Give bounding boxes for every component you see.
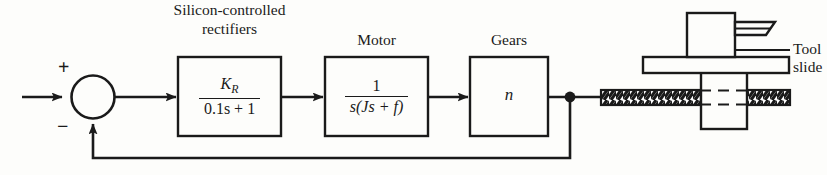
- scr-transfer-function: KR 0.1s + 1: [178, 57, 281, 136]
- motor-denominator: s(Js + f): [345, 96, 408, 116]
- scr-numerator: KR: [216, 75, 244, 98]
- motor-transfer-function: 1 s(Js + f): [325, 57, 428, 136]
- motor-numerator: 1: [368, 77, 386, 96]
- block-diagram-figure: Silicon-controlled rectifiers Motor Gear…: [0, 0, 827, 175]
- tool-slide-label-line1: Tool: [793, 40, 821, 58]
- plus-sign-label: +: [58, 57, 69, 78]
- scr-caption-line2: rectifiers: [148, 21, 311, 37]
- gears-gain-label: n: [470, 86, 548, 104]
- summing-junction: [72, 76, 115, 119]
- motor-denominator-paren: (Js + f): [356, 98, 403, 115]
- scr-caption-line1: Silicon-controlled: [148, 2, 311, 18]
- tool-slide-label-line2: slide: [793, 58, 822, 76]
- motor-caption: Motor: [326, 32, 427, 48]
- lead-screw-thread-right: [746, 90, 790, 105]
- gears-caption: Gears: [470, 32, 548, 48]
- scr-denominator: 0.1s + 1: [199, 98, 260, 118]
- lead-screw-nut: [701, 67, 747, 129]
- lead-screw-thread-left: [601, 90, 701, 105]
- tool-slide-plate: [643, 57, 789, 73]
- minus-sign-label: −: [57, 116, 68, 137]
- tool-holder-block: [687, 13, 735, 57]
- signal-takeoff-node: [565, 92, 576, 103]
- scr-numerator-symbol: K: [221, 75, 232, 92]
- scr-numerator-subscript: R: [231, 82, 238, 96]
